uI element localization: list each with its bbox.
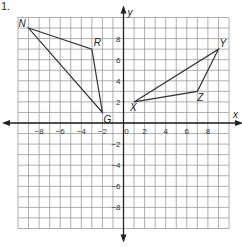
vertex-label-r: R xyxy=(94,37,101,48)
y-tick-label: −4 xyxy=(111,161,121,170)
x-tick-label: −8 xyxy=(35,127,45,136)
x-tick-label: 6 xyxy=(185,127,190,136)
x-tick-label: −6 xyxy=(56,127,66,136)
y-axis-up-arrow-icon xyxy=(121,6,127,14)
y-axis-label: y xyxy=(127,7,134,18)
x-tick-label: 2 xyxy=(142,127,147,136)
vertex-label-g: G xyxy=(103,114,111,125)
y-tick-label: 2 xyxy=(116,98,121,107)
x-tick-label: 8 xyxy=(206,127,211,136)
y-tick-label: 4 xyxy=(116,77,121,86)
y-tick-label: −2 xyxy=(111,140,121,149)
y-axis-down-arrow-icon xyxy=(121,235,127,243)
y-tick-label: 6 xyxy=(116,56,121,65)
coordinate-plane: xy−8−6−4−2024688642−2−4−6−8NRGXYZ xyxy=(0,0,242,247)
vertex-label-y: Y xyxy=(219,38,227,49)
y-tick-label: −8 xyxy=(111,203,121,212)
x-tick-label: −2 xyxy=(98,127,108,136)
x-tick-label: −4 xyxy=(77,127,87,136)
x-tick-label: 0 xyxy=(124,127,129,136)
x-tick-label: 4 xyxy=(163,127,168,136)
x-axis-right-arrow-icon xyxy=(235,120,242,126)
x-axis-label: x xyxy=(232,109,239,120)
vertex-label-n: N xyxy=(19,18,27,29)
vertex-label-z: Z xyxy=(196,92,204,103)
y-tick-label: 8 xyxy=(116,35,121,44)
vertex-label-x: X xyxy=(129,102,137,113)
y-tick-label: −6 xyxy=(111,182,121,191)
x-axis-left-arrow-icon xyxy=(2,120,10,126)
